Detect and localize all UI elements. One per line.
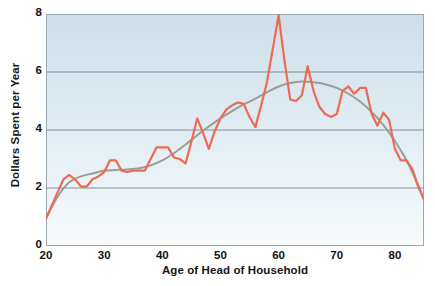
x-tick-label: 80: [380, 249, 410, 261]
x-tick-label: 20: [31, 249, 61, 261]
y-tick-label: 2: [26, 180, 42, 192]
x-tick-label: 70: [322, 249, 352, 261]
plot-area: [46, 14, 424, 246]
x-tick-label: 60: [264, 249, 294, 261]
chart-figure: Dollars Spent per Year 02468 20304050607…: [0, 0, 435, 286]
x-tick-label: 50: [205, 249, 235, 261]
x-tick-label: 40: [147, 249, 177, 261]
y-tick-label: 4: [26, 122, 42, 134]
y-axis-tick-labels: 02468: [24, 0, 42, 286]
x-axis-title: Age of Head of Household: [46, 264, 424, 276]
y-tick-label: 6: [26, 64, 42, 76]
x-tick-label: 30: [89, 249, 119, 261]
y-tick-label: 8: [26, 6, 42, 18]
chart-svg: [46, 14, 424, 246]
y-axis-title-text: Dollars Spent per Year: [9, 63, 21, 188]
